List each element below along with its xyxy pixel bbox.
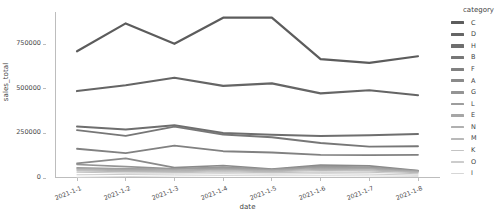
legend-label-O: O	[471, 159, 476, 166]
legend-label-F: F	[471, 66, 475, 73]
legend-key-swatch-B	[451, 56, 464, 59]
legend-key-swatch-D	[451, 33, 464, 36]
y-tick-mark	[43, 44, 46, 45]
legend-label-H: H	[471, 43, 476, 50]
x-tick-mark	[174, 178, 175, 181]
y-tick-label: 750000	[16, 40, 41, 47]
legend-item-E[interactable]: E	[449, 110, 497, 122]
legend-key-swatch-E	[451, 114, 464, 116]
legend-label-L: L	[471, 101, 475, 108]
series-line-C	[77, 18, 418, 63]
y-tick-label: 500000	[16, 85, 41, 92]
x-tick-label: 2021-1-3	[146, 184, 180, 203]
y-axis-title: sales_total	[2, 47, 10, 117]
y-tick-label: 250000	[16, 129, 41, 136]
legend-key-swatch-N	[451, 126, 464, 128]
legend-item-I[interactable]: I	[449, 168, 497, 180]
x-tick-label: 2021-1-7	[340, 184, 374, 203]
series-line-O	[77, 174, 418, 175]
plot-area	[55, 12, 440, 178]
legend-label-C: C	[471, 20, 476, 27]
x-tick-label: 2021-1-2	[97, 184, 131, 203]
legend-label-G: G	[471, 89, 476, 96]
y-tick-mark	[43, 178, 46, 179]
x-tick-label: 2021-1-6	[292, 184, 326, 203]
x-tick-mark	[77, 178, 78, 181]
x-axis-tick-labels: 2021-1-12021-1-22021-1-32021-1-42021-1-5…	[55, 178, 440, 206]
legend-item-B[interactable]: B	[449, 52, 497, 64]
legend-key-swatch-F	[451, 68, 464, 71]
legend-item-D[interactable]: D	[449, 29, 497, 41]
legend-title: category	[463, 6, 497, 14]
x-tick-label: 2021-1-5	[243, 184, 277, 203]
legend-item-O[interactable]: O	[449, 156, 497, 168]
legend-item-K[interactable]: K	[449, 145, 497, 157]
legend-key-swatch-G	[451, 91, 464, 93]
x-tick-mark	[369, 178, 370, 181]
y-tick-mark	[43, 88, 46, 89]
series-line-D	[77, 78, 418, 95]
legend-key-swatch-C	[451, 21, 464, 24]
x-tick-label: 2021-1-4	[194, 184, 228, 203]
legend-key-swatch-M	[451, 138, 464, 140]
x-tick-label: 2021-1-8	[389, 184, 423, 203]
x-tick-label: 2021-1-1	[48, 184, 82, 203]
legend-item-F[interactable]: F	[449, 63, 497, 75]
x-tick-mark	[125, 178, 126, 181]
legend-label-B: B	[471, 54, 475, 61]
legend-label-D: D	[471, 31, 476, 38]
legend-label-E: E	[471, 112, 475, 119]
legend-key-swatch-A	[451, 79, 464, 82]
legend-item-H[interactable]: H	[449, 40, 497, 52]
legend-items: CDHBFAGLENMKOI	[449, 17, 497, 179]
legend-item-L[interactable]: L	[449, 98, 497, 110]
legend-label-M: M	[471, 135, 477, 142]
legend-key-swatch-O	[451, 161, 464, 162]
line-chart-svg	[55, 12, 440, 178]
legend-label-A: A	[471, 78, 475, 85]
legend-label-K: K	[471, 147, 475, 154]
y-tick-label: 0	[37, 174, 41, 181]
legend-key-swatch-I	[451, 173, 464, 174]
x-axis-title: date	[55, 203, 440, 211]
legend-key-swatch-K	[451, 150, 464, 152]
legend-key-swatch-H	[451, 44, 464, 47]
legend-item-M[interactable]: M	[449, 133, 497, 145]
chart-root: 0250000500000750000 sales_total 2021-1-1…	[0, 0, 497, 216]
series-line-H	[77, 125, 418, 136]
y-tick-mark	[43, 133, 46, 134]
legend-item-N[interactable]: N	[449, 121, 497, 133]
legend-item-G[interactable]: G	[449, 87, 497, 99]
legend-label-I: I	[471, 170, 473, 177]
legend-key-swatch-L	[451, 103, 464, 105]
legend-item-C[interactable]: C	[449, 17, 497, 29]
x-tick-mark	[418, 178, 419, 181]
x-tick-mark	[320, 178, 321, 181]
legend-item-A[interactable]: A	[449, 75, 497, 87]
x-tick-mark	[271, 178, 272, 181]
legend-label-N: N	[471, 124, 476, 131]
x-tick-mark	[223, 178, 224, 181]
legend: category CDHBFAGLENMKOI	[449, 6, 497, 179]
